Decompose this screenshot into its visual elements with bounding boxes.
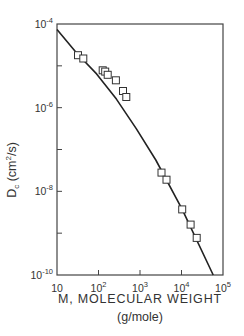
y-tick-label: 10-4 xyxy=(35,16,53,30)
data-point-square xyxy=(123,94,130,101)
model-curve-line xyxy=(57,30,213,276)
data-points xyxy=(75,52,201,242)
y-axis-label: Dc (cm2/s) xyxy=(4,142,21,198)
data-point-square xyxy=(163,176,170,183)
x-axis-label: M, MOLECULAR WEIGHT xyxy=(58,292,222,306)
data-point-square xyxy=(80,55,87,62)
data-point-square xyxy=(179,206,186,213)
y-tick-label: 10-8 xyxy=(35,183,53,197)
y-tick-label: 10-10 xyxy=(30,267,53,281)
data-point-square xyxy=(112,77,119,84)
diffusion-coefficient-plot: 10-410-610-810-10 10102103104105 M, MOLE… xyxy=(0,0,244,336)
data-point-square xyxy=(193,234,200,241)
x-axis-ticks: 10102103104105 xyxy=(51,270,231,294)
model-curve xyxy=(57,30,213,276)
data-point-square xyxy=(158,169,165,176)
y-tick-label: 10-6 xyxy=(35,100,53,114)
x-axis-units: (g/mole) xyxy=(117,310,163,324)
y-axis-label-text: Dc (cm2/s) xyxy=(4,142,21,198)
chart: 10-410-610-810-10 10102103104105 M, MOLE… xyxy=(0,0,244,336)
data-point-square xyxy=(187,221,194,228)
data-point-square xyxy=(104,71,111,78)
